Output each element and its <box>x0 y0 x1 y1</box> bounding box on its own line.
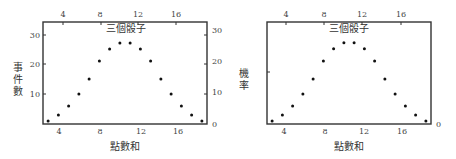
left-chart-title: 三個骰子 <box>106 22 146 34</box>
left-top-tick-8: 8 <box>97 10 102 19</box>
left-top-tick-16: 16 <box>171 10 181 19</box>
right-chart: 4 8 12 16 4 8 12 16 0 三個骰子 機 率 點數和 <box>239 10 441 152</box>
dice-charts: 4 8 12 16 4 8 12 16 30 20 10 30 20 <box>0 0 456 159</box>
data-point <box>394 92 397 95</box>
data-point <box>108 48 111 51</box>
data-point <box>57 114 60 117</box>
left-y-label-char-3: 數 <box>13 85 23 97</box>
left-bottom-tick-12: 12 <box>136 127 146 136</box>
data-point <box>98 60 101 63</box>
data-point <box>353 41 356 44</box>
data-point <box>159 78 162 81</box>
left-bottom-tick-4: 4 <box>56 127 61 136</box>
right-data-points <box>271 41 428 122</box>
left-chart: 4 8 12 16 4 8 12 16 30 20 10 30 20 <box>13 10 222 152</box>
left-bottom-tick-16: 16 <box>173 127 183 136</box>
data-point <box>190 114 193 117</box>
left-top-tick-4: 4 <box>60 10 65 19</box>
right-right-tick-0: 0 <box>436 120 441 129</box>
left-right-tick-20: 20 <box>212 57 222 66</box>
right-bottom-tick-12: 12 <box>359 127 369 136</box>
right-top-tick-12: 12 <box>357 10 367 19</box>
left-right-tick-0: 0 <box>212 120 217 129</box>
data-point <box>404 104 407 107</box>
data-point <box>170 93 173 96</box>
data-point <box>424 120 427 123</box>
right-x-label: 點數和 <box>334 140 364 152</box>
data-point <box>88 78 91 81</box>
right-bottom-tick-8: 8 <box>322 127 327 136</box>
data-point <box>383 77 386 80</box>
data-point <box>322 59 325 62</box>
data-point <box>373 59 376 62</box>
data-point <box>118 42 121 45</box>
data-point <box>291 104 294 107</box>
data-point <box>149 60 152 63</box>
left-plot-frame <box>43 22 207 124</box>
right-bottom-axis: 4 8 12 16 <box>281 127 407 136</box>
data-point <box>180 105 183 108</box>
left-y-label-char-1: 事 <box>13 61 23 73</box>
right-y-label: 機 率 <box>239 67 249 91</box>
data-point <box>77 93 80 96</box>
right-y-label-char-2: 率 <box>239 79 249 91</box>
data-point <box>271 120 274 123</box>
data-point <box>312 77 315 80</box>
data-point <box>67 105 70 108</box>
data-point <box>281 114 284 117</box>
right-top-tick-4: 4 <box>283 10 288 19</box>
data-point <box>363 47 366 50</box>
left-data-points <box>47 42 204 123</box>
data-point <box>332 47 335 50</box>
right-top-tick-8: 8 <box>321 10 326 19</box>
left-y-label: 事 件 數 <box>13 61 23 97</box>
left-right-tick-10: 10 <box>212 88 222 97</box>
right-plot-frame <box>267 22 431 124</box>
left-bottom-tick-8: 8 <box>97 127 102 136</box>
data-point <box>200 120 203 123</box>
data-point <box>301 92 304 95</box>
right-bottom-tick-4: 4 <box>281 127 286 136</box>
data-point <box>139 48 142 51</box>
left-x-label: 點數和 <box>110 140 140 152</box>
right-top-tick-16: 16 <box>396 10 406 19</box>
right-bottom-tick-16: 16 <box>397 127 407 136</box>
right-y-label-char-1: 機 <box>239 67 249 79</box>
left-top-tick-12: 12 <box>133 10 143 19</box>
left-y-label-char-2: 件 <box>13 74 23 85</box>
data-point <box>414 114 417 117</box>
left-y-tick-30: 30 <box>30 31 40 40</box>
left-y-tick-20: 20 <box>30 60 40 69</box>
data-point <box>129 42 132 45</box>
left-y-tick-10: 10 <box>30 90 40 99</box>
data-point <box>342 41 345 44</box>
left-right-tick-30: 30 <box>212 26 222 35</box>
left-bottom-axis: 4 8 12 16 <box>56 127 183 136</box>
right-chart-title: 三個骰子 <box>329 22 369 34</box>
data-point <box>47 120 50 123</box>
